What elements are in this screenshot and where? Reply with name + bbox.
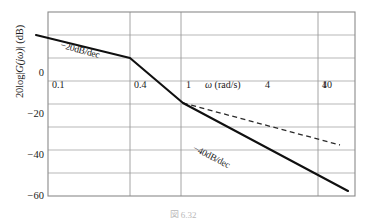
dashed-asymptote-minus-20db <box>183 103 340 145</box>
magnitude-asymptote-curve <box>36 35 348 191</box>
plot-area <box>0 0 366 218</box>
figure-caption: 図 6.32 <box>0 208 366 218</box>
bode-magnitude-figure: 20log|G(jω)| (dB) 0 −20 −40 −60 0.1 0.4 … <box>0 0 366 218</box>
horizontal-gridlines <box>48 35 355 173</box>
